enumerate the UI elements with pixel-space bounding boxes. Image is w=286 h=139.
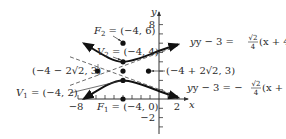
asymptote-lower-eq: yy − 3 = −: [186, 82, 243, 93]
lower-branch: [84, 80, 178, 98]
asymptote-lower-num: √2: [252, 80, 261, 88]
y-tick-label-neg2: −2: [140, 112, 155, 123]
x-ticks: [78, 95, 177, 99]
x-tick-label-2: 2: [174, 101, 180, 112]
asymptote-lower-rhs: (x + 4): [262, 82, 286, 93]
vertex-v1-dot: [120, 78, 125, 83]
asymptote-upper-num: √2: [249, 34, 258, 42]
f2-leader: [113, 36, 121, 41]
asymptote-upper-rhs: (x + 4): [259, 36, 286, 47]
f2-label: F2 = (−4, 6): [93, 25, 156, 38]
v2-label: V2 = (−4, 4): [97, 46, 159, 59]
x-axis-label: x: [189, 99, 195, 110]
right-point-label: (−4 + 2√2, 3): [166, 65, 235, 76]
right-point-dot: [146, 69, 151, 74]
vertex-v2-dot: [120, 59, 125, 64]
left-point-label: (−4 − 2√2, 3): [32, 65, 101, 76]
y-ticks: [159, 25, 163, 127]
labels: F2 = (−4, 6) V2 = (−4, 4) (−4 − 2√2, 3) …: [16, 25, 286, 114]
asymptote-upper-den: 4: [251, 43, 256, 51]
x-tick-label-neg8: −8: [69, 101, 84, 112]
asymptote-upper-eq: yy − 3 =: [189, 36, 234, 47]
asymptote-lower-den: 4: [254, 89, 259, 97]
hyperbola-diagram: x y −8 2 8 −2 F2 = (−4, 6) V2 = (−4,: [0, 0, 286, 139]
v1-label: V1 = (−4, 2): [16, 87, 78, 100]
y-axis-label: y: [150, 6, 157, 17]
center-dot: [120, 69, 125, 74]
